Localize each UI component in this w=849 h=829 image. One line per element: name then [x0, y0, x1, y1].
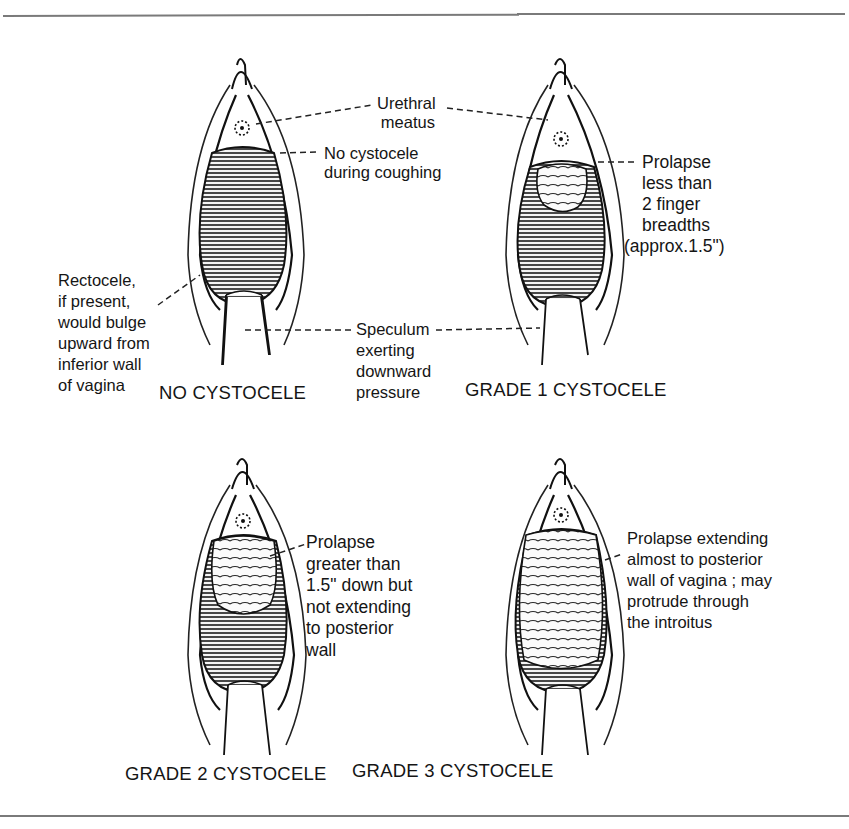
- label-line: 1.5" down but: [306, 575, 412, 597]
- speculum-label: Speculum exerting downward pressure: [356, 319, 431, 403]
- label-line: the introitus: [627, 612, 772, 633]
- label-line: meatus: [377, 113, 436, 132]
- label-line: Rectocele,: [58, 270, 150, 291]
- grade-1-caption: GRADE 1 CYSTOCELE: [465, 379, 666, 401]
- grade-3-caption: GRADE 3 CYSTOCELE: [352, 760, 553, 782]
- label-line: during coughing: [324, 163, 441, 182]
- label-line: to posterior: [306, 618, 412, 640]
- no-cystocele-coughing-label: No cystocele during coughing: [324, 144, 441, 182]
- grade-2-prolapse-label: Prolapse greater than 1.5" down but not …: [306, 532, 412, 661]
- label-line: Speculum: [356, 319, 431, 340]
- label-line: less than: [642, 173, 725, 194]
- label-line: of vagina: [58, 375, 150, 396]
- label-line: if present,: [58, 291, 150, 312]
- no-cystocele-caption: NO CYSTOCELE: [159, 382, 306, 404]
- label-line: Prolapse: [306, 532, 412, 554]
- grade-2-caption: GRADE 2 CYSTOCELE: [125, 763, 326, 785]
- label-line: pressure: [356, 382, 431, 403]
- label-line: greater than: [306, 554, 412, 576]
- grade-3-prolapse-label: Prolapse extending almost to posterior w…: [627, 528, 772, 633]
- label-line: would bulge: [58, 312, 150, 333]
- label-line: wall: [306, 640, 412, 662]
- label-line: 2 finger: [642, 194, 725, 215]
- label-line: breadths: [642, 215, 725, 236]
- label-line: exerting: [356, 340, 431, 361]
- label-line: (approx.1.5"): [624, 236, 725, 257]
- rectocele-label: Rectocele, if present, would bulge upwar…: [58, 270, 150, 396]
- label-line: inferior wall: [58, 354, 150, 375]
- label-line: Urethral: [377, 94, 436, 113]
- label-line: protrude through: [627, 591, 772, 612]
- label-line: downward: [356, 361, 431, 382]
- label-line: wall of vagina ; may: [627, 570, 772, 591]
- label-line: Prolapse: [642, 152, 725, 173]
- label-line: not extending: [306, 597, 412, 619]
- label-line: almost to posterior: [627, 549, 772, 570]
- label-line: upward from: [58, 333, 150, 354]
- label-line: Prolapse extending: [627, 528, 772, 549]
- urethral-meatus-label: Urethral meatus: [377, 94, 436, 132]
- grade-1-prolapse-label: Prolapse less than 2 finger breadths (ap…: [642, 152, 725, 257]
- label-line: No cystocele: [324, 144, 441, 163]
